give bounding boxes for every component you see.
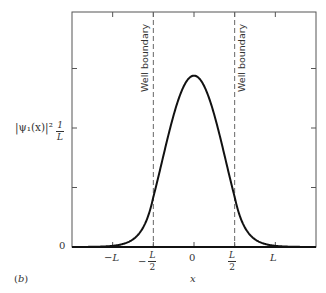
panel-letter: b — [18, 273, 24, 284]
well-boundary-label-left: Well boundary — [139, 24, 150, 92]
y-tick-label-1-over-L: 1L — [56, 121, 64, 142]
panel-label: (b) — [14, 273, 28, 284]
x-axis-label: x — [190, 273, 196, 284]
well-boundary-lines — [153, 12, 234, 247]
x-tick-label-minus-half-L: − L2 — [138, 251, 156, 272]
y-tick-label-0: 0 — [59, 240, 65, 251]
y-axis-label-text: |ψ₁(x)|² — [15, 121, 53, 133]
probability-density-curve — [72, 76, 316, 247]
probability-density-plot — [0, 0, 326, 293]
plot-frame — [72, 12, 316, 247]
well-boundary-label-right: Well boundary — [236, 24, 247, 92]
y-axis-label: |ψ₁(x)|² — [15, 121, 53, 133]
x-tick-label-L: L — [270, 252, 277, 263]
axis-ticks — [72, 12, 316, 247]
x-tick-label-0: 0 — [189, 252, 195, 263]
x-tick-label-minus-L: −L — [104, 252, 119, 263]
x-tick-label-half-L: L2 — [228, 251, 236, 272]
